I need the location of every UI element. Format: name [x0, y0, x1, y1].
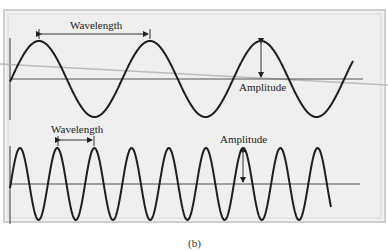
top-amplitude-label: Amplitude: [239, 81, 286, 93]
wave-diagram: Wavelength Amplitude Wavelength Amplitud…: [0, 0, 388, 251]
frame-inner: [8, 14, 381, 218]
bottom-wavelength-label: Wavelength: [51, 123, 104, 135]
top-wavelength-label: Wavelength: [70, 19, 123, 31]
figure-caption: (b): [188, 237, 201, 250]
bottom-amplitude-label: Amplitude: [220, 133, 267, 145]
